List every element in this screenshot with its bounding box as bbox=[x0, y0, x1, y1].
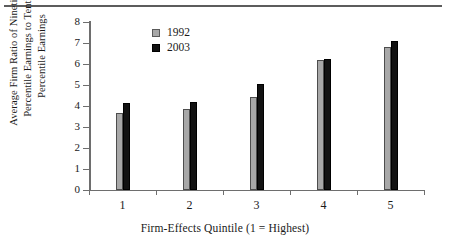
y-tick-label-1: 1 bbox=[62, 163, 80, 174]
figure-bar-chart: Average Firm Ratio of Ninetieth Percenti… bbox=[0, 0, 450, 250]
bar-1992-q2 bbox=[183, 109, 190, 190]
x-tick-2 bbox=[223, 190, 224, 195]
chart-legend: 1992 2003 bbox=[152, 26, 190, 56]
y-tick-label-4: 4 bbox=[62, 100, 80, 111]
y-tick-label-0: 0 bbox=[62, 184, 80, 195]
y-tick-label-2: 2 bbox=[62, 142, 80, 153]
x-tick-label-3: 3 bbox=[237, 198, 277, 213]
legend-swatch-2003-icon bbox=[152, 44, 160, 52]
bar-1992-q4 bbox=[317, 60, 324, 190]
top-horizontal-rule bbox=[4, 5, 442, 7]
bar-1992-q3 bbox=[250, 97, 257, 190]
bar-2003-q2 bbox=[190, 102, 197, 190]
y-axis-title-line-2: Percentile Earnings to Tenth bbox=[21, 0, 35, 117]
x-tick-5 bbox=[424, 190, 425, 195]
bar-2003-q1 bbox=[123, 103, 130, 190]
x-tick-label-4: 4 bbox=[304, 198, 344, 213]
y-tick-label-5: 5 bbox=[62, 79, 80, 90]
x-tick-4 bbox=[357, 190, 358, 195]
y-axis-title: Average Firm Ratio of Ninetieth Percenti… bbox=[0, 0, 56, 146]
y-axis-title-line-3: Percentile Earnings bbox=[35, 14, 49, 98]
y-tick-label-8: 8 bbox=[62, 16, 80, 27]
x-tick-0 bbox=[89, 190, 90, 195]
y-tick-label-7: 7 bbox=[62, 37, 80, 48]
legend-item-2003: 2003 bbox=[152, 41, 190, 54]
y-axis-title-line-1: Average Firm Ratio of Ninetieth bbox=[7, 0, 21, 126]
x-tick-3 bbox=[290, 190, 291, 195]
legend-label-2003: 2003 bbox=[167, 41, 190, 54]
x-tick-label-2: 2 bbox=[170, 198, 210, 213]
x-axis-title: Firm-Effects Quintile (1 = Highest) bbox=[0, 222, 450, 234]
legend-swatch-1992-icon bbox=[152, 29, 160, 37]
legend-item-1992: 1992 bbox=[152, 26, 190, 39]
y-tick-label-3: 3 bbox=[62, 121, 80, 132]
x-tick-1 bbox=[156, 190, 157, 195]
x-tick-label-5: 5 bbox=[371, 198, 411, 213]
legend-label-1992: 1992 bbox=[167, 26, 190, 39]
bar-1992-q5 bbox=[384, 47, 391, 190]
y-tick-label-6: 6 bbox=[62, 58, 80, 69]
bar-2003-q5 bbox=[391, 41, 398, 190]
bar-1992-q1 bbox=[116, 113, 123, 190]
bar-2003-q3 bbox=[257, 84, 264, 190]
bar-2003-q4 bbox=[324, 59, 331, 190]
x-tick-label-1: 1 bbox=[103, 198, 143, 213]
plot-area bbox=[89, 22, 424, 190]
